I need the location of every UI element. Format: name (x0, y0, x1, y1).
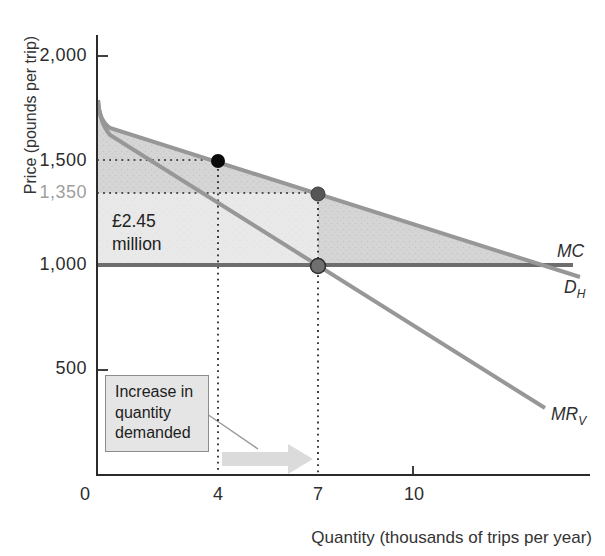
callout-line1: Increase in (115, 382, 204, 403)
profit-area-label: £2.45 million (112, 210, 162, 256)
y-tick-2000: 2,000 (15, 45, 87, 66)
demand-curve-label: DH (564, 277, 585, 301)
increase-arrow (222, 444, 313, 474)
point-q7-p1350 (311, 187, 325, 201)
increase-quantity-callout: Increase in quantity demanded (105, 375, 209, 452)
x-tick-7: 7 (302, 484, 334, 505)
x-tick-10: 10 (398, 484, 430, 505)
mc-curve-label: MC (557, 241, 584, 262)
marginal-revenue-curve-label-main: MR (551, 404, 578, 424)
demand-curve-label-sub: H (577, 287, 586, 301)
y-tick-1500: 1,500 (15, 150, 87, 171)
callout-line2: quantity (115, 403, 204, 424)
price-discrimination-chart: Price (pounds per trip) Quantity (thousa… (0, 0, 605, 556)
y-tick-500: 500 (15, 358, 87, 379)
callout-leader-line (207, 414, 258, 449)
profit-area-label-line1: £2.45 (112, 210, 162, 233)
demand-curve-label-main: D (564, 277, 577, 297)
marginal-revenue-curve-label: MRV (551, 404, 586, 428)
y-tick-1000: 1,000 (15, 254, 87, 275)
x-axis-title: Quantity (thousands of trips per year) (230, 528, 592, 548)
point-q4-p1500 (211, 154, 225, 168)
y-tick-1350: 1,350 (15, 182, 87, 203)
callout-line3: demanded (115, 423, 204, 444)
plot-canvas (0, 0, 605, 556)
x-tick-4: 4 (202, 484, 234, 505)
point-q7-p1000 (311, 259, 326, 274)
profit-area-label-line2: million (112, 233, 162, 256)
marginal-revenue-curve-label-sub: V (578, 414, 586, 428)
x-tick-0: 0 (69, 484, 101, 505)
